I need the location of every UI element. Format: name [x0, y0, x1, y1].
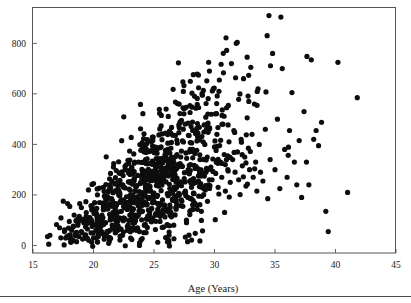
data-point	[306, 182, 311, 187]
data-point	[164, 157, 169, 162]
data-point	[207, 186, 212, 191]
data-point	[171, 223, 176, 228]
data-point	[174, 178, 179, 183]
data-point	[197, 202, 202, 207]
x-tick-label: 45	[391, 260, 401, 270]
data-point	[67, 219, 72, 224]
data-point	[309, 57, 314, 62]
data-point	[237, 91, 242, 96]
data-point	[154, 194, 159, 199]
data-point	[103, 194, 108, 199]
data-point	[118, 226, 123, 231]
data-point	[289, 90, 294, 95]
data-point	[107, 176, 112, 181]
data-point	[102, 206, 107, 211]
data-point	[132, 161, 137, 166]
data-point	[159, 156, 164, 161]
data-point	[167, 229, 172, 234]
data-point	[219, 161, 224, 166]
data-point	[216, 185, 221, 190]
data-point	[137, 189, 142, 194]
data-point	[108, 236, 113, 241]
data-point	[108, 171, 113, 176]
data-point	[263, 127, 268, 132]
data-point	[205, 122, 210, 127]
data-point	[98, 228, 103, 233]
data-point	[207, 177, 212, 182]
data-point	[174, 207, 179, 212]
data-point	[176, 122, 181, 127]
data-point	[77, 214, 82, 219]
data-point	[199, 194, 204, 199]
data-point	[196, 85, 201, 90]
data-point	[173, 212, 178, 217]
data-point	[94, 213, 99, 218]
scatter-plot-figure: 0200400600800 15202530354045 Age (Years)	[0, 0, 411, 303]
data-point	[254, 189, 259, 194]
data-point	[181, 127, 186, 132]
data-point	[280, 66, 285, 71]
data-point	[247, 167, 252, 172]
data-point	[170, 172, 175, 177]
data-point	[91, 230, 96, 235]
data-point	[225, 153, 230, 158]
data-point	[198, 172, 203, 177]
data-point	[215, 125, 220, 130]
x-axis-title: Age (Years)	[188, 283, 239, 295]
data-point	[214, 132, 219, 137]
data-point	[179, 183, 184, 188]
data-point	[174, 137, 179, 142]
data-point	[102, 237, 107, 242]
data-point	[319, 120, 324, 125]
data-point	[219, 113, 224, 118]
data-point	[223, 189, 228, 194]
data-point	[286, 153, 291, 158]
data-point	[165, 223, 170, 228]
data-point	[72, 213, 77, 218]
data-point	[109, 204, 114, 209]
x-tick-label: 40	[331, 260, 341, 270]
data-point	[355, 95, 360, 100]
data-point	[125, 168, 130, 173]
data-point	[89, 240, 94, 245]
data-point	[121, 114, 126, 119]
data-point	[156, 177, 161, 182]
data-point	[94, 221, 99, 226]
data-point	[198, 181, 203, 186]
data-point	[89, 182, 94, 187]
data-point	[241, 174, 246, 179]
data-point	[181, 89, 186, 94]
data-point	[207, 68, 212, 73]
data-point	[314, 128, 319, 133]
data-point	[166, 148, 171, 153]
data-point	[139, 176, 144, 181]
data-point	[258, 170, 263, 175]
data-point	[77, 201, 82, 206]
data-point	[111, 190, 116, 195]
data-point	[190, 119, 195, 124]
data-point	[187, 110, 192, 115]
data-point	[335, 60, 340, 65]
data-point	[204, 78, 209, 83]
data-point	[245, 182, 250, 187]
data-point	[149, 178, 154, 183]
data-point	[145, 195, 150, 200]
data-point	[148, 217, 153, 222]
data-point	[186, 133, 191, 138]
data-point	[180, 138, 185, 143]
data-point	[190, 128, 195, 133]
data-point	[157, 107, 162, 112]
data-point	[89, 217, 94, 222]
data-point	[147, 212, 152, 217]
data-point	[46, 242, 51, 247]
data-point	[176, 130, 181, 135]
data-point	[292, 159, 297, 164]
data-point	[245, 55, 250, 60]
x-tick-label: 15	[28, 260, 38, 270]
data-point	[149, 206, 154, 211]
data-point	[226, 168, 231, 173]
data-point	[187, 212, 192, 217]
data-point	[135, 225, 140, 230]
data-point	[178, 161, 183, 166]
data-point	[236, 97, 241, 102]
